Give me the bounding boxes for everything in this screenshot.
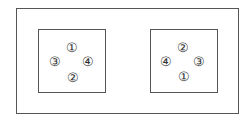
right-label-2: ② [177, 41, 189, 54]
left-label-2: ② [67, 71, 79, 84]
left-label-1: ① [66, 41, 78, 54]
left-label-3: ③ [49, 55, 61, 68]
right-label-3: ③ [193, 55, 205, 68]
right-label-4: ④ [160, 55, 172, 68]
right-label-1: ① [178, 70, 190, 83]
left-label-4: ④ [82, 55, 94, 68]
